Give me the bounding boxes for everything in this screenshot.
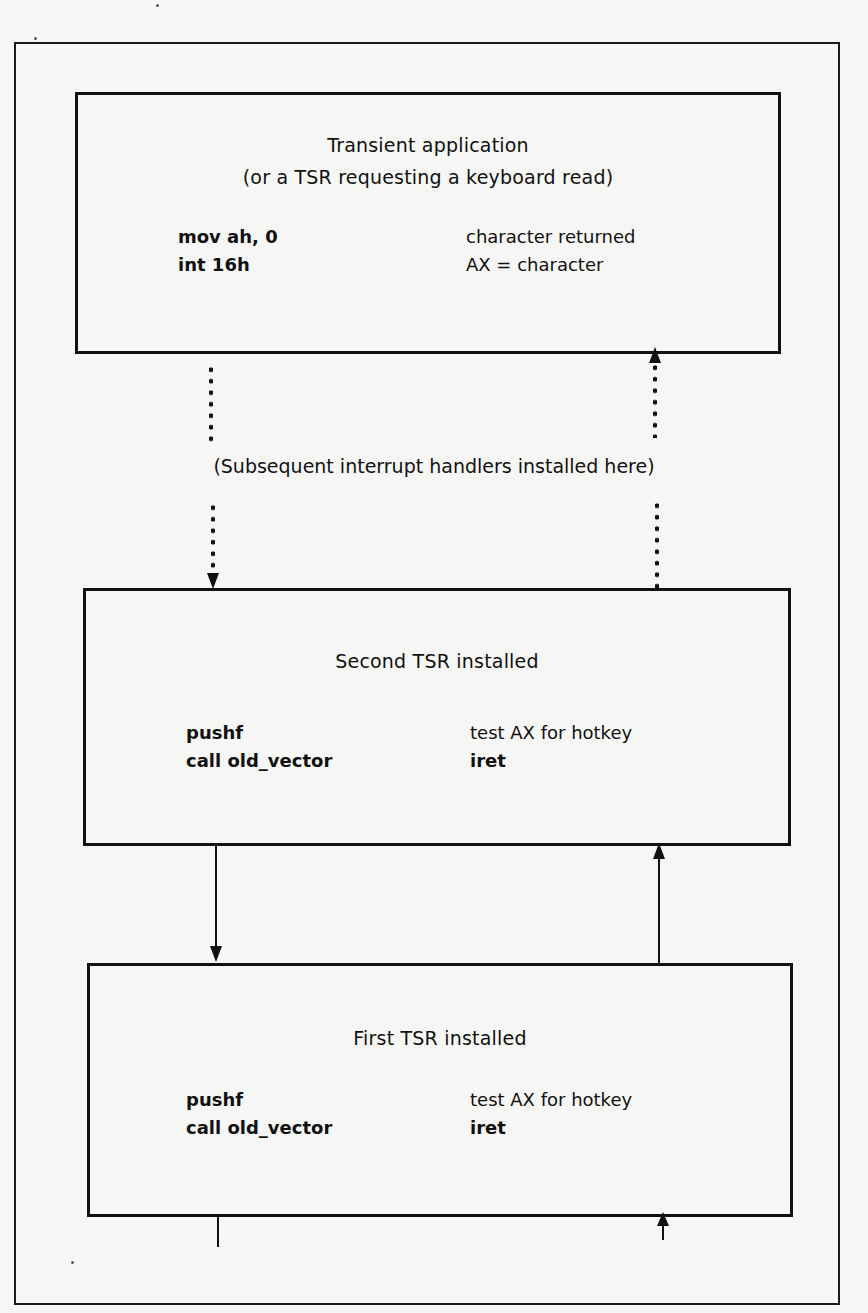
code-line: int 16h [178,253,250,277]
code-line: pushf [186,1088,243,1112]
note-line: test AX for hotkey [470,721,632,745]
solid-line-down [215,845,217,947]
dotted-line-up-lower [655,500,659,588]
solid-line-down-exit [217,1216,219,1247]
scan-speck [71,1261,74,1264]
code-line: call old_vector [186,749,332,773]
first-tsr-box: First TSR installed pushf call old_vecto… [87,963,793,1217]
note-line: test AX for hotkey [470,1088,632,1112]
second-tsr-box: Second TSR installed pushf call old_vect… [83,588,791,846]
note-line: iret [470,749,506,773]
code-line: pushf [186,721,243,745]
solid-line-up [658,858,660,963]
note-line: AX = character [466,253,603,277]
scan-speck [156,4,159,7]
code-line: call old_vector [186,1116,332,1140]
box-title-line-2: (or a TSR requesting a keyboard read) [78,163,778,191]
dotted-line-down-lower [211,502,215,574]
note-line: iret [470,1116,506,1140]
code-line: mov ah, 0 [178,225,278,249]
transient-application-box: Transient application (or a TSR requesti… [75,92,781,354]
arrow-down-icon [210,946,222,962]
box-title: First TSR installed [90,1024,790,1052]
dotted-line-up-upper [653,362,657,438]
arrow-up-icon [649,347,661,363]
dotted-line-down-upper [209,364,213,444]
box-title: Second TSR installed [86,647,788,675]
note-line: character returned [466,225,635,249]
arrow-down-icon [207,573,219,589]
arrow-up-icon [657,1212,669,1226]
arrow-up-icon [653,843,665,859]
subsequent-handlers-label: (Subsequent interrupt handlers installed… [0,453,868,479]
scan-speck [34,37,37,40]
box-title-line-1: Transient application [78,131,778,159]
